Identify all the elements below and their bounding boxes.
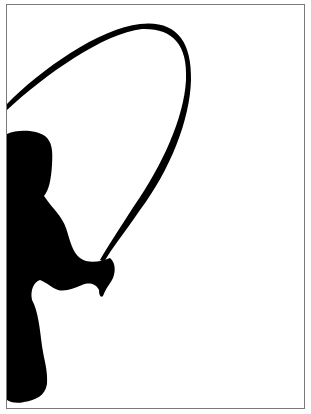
silhouette-illustration [0, 0, 311, 414]
child-silhouette [7, 131, 115, 403]
